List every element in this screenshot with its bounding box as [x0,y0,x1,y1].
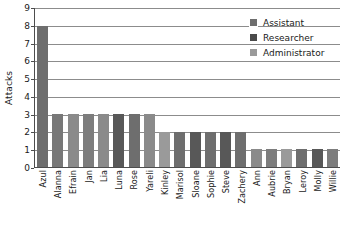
x-axis-tick-label-slot: Sloane [188,169,203,227]
bar[interactable] [235,132,246,167]
legend-label: Researcher [263,33,314,43]
legend-entry[interactable]: Administrator [249,45,341,60]
x-axis-tick-label-slot: Sophie [203,169,218,227]
y-axis-tick-label: 7 [16,39,30,48]
bar[interactable] [37,26,48,167]
x-axis-tick-label: Marisol [176,170,185,199]
x-axis-tick-label: Zachery [237,170,246,204]
bar-slot [172,8,187,167]
legend-swatch-icon [249,48,258,57]
x-axis-tick-label: Efrain [69,170,78,194]
x-axis-line [34,167,340,168]
bar[interactable] [327,149,338,167]
x-axis-tick-label-slot: Alanna [50,169,65,227]
bar[interactable] [266,149,277,167]
x-axis-tick-label: Azul [38,170,47,187]
bar[interactable] [159,132,170,167]
bar-slot [35,8,50,167]
x-axis-tick-label: Sophie [206,170,215,198]
chart-legend: AssistantResearcherAdministrator [246,14,341,61]
x-axis-tick-label-slot: Yareli [142,169,157,227]
x-axis-tick-label: Alanna [53,170,62,198]
legend-swatch-icon [249,18,258,27]
bar-slot [203,8,218,167]
y-axis-tick-label: 5 [16,75,30,84]
x-axis-tick-label-slot: Kinley [157,169,172,227]
x-axis-tick-label: Leroy [298,170,307,192]
y-axis-tick-label: 2 [16,128,30,137]
x-axis-tick-label-slot: Efrain [66,169,81,227]
bar[interactable] [144,114,155,167]
y-axis-tick-label: 3 [16,110,30,119]
x-axis-tick-label-slot: Jan [81,169,96,227]
x-axis-tick-label: Molly [313,170,322,191]
bar-slot [96,8,111,167]
bar-slot [188,8,203,167]
x-axis-tick-label-slot: Lia [96,169,111,227]
bar[interactable] [312,149,323,167]
x-axis-tick-label-slot: Rose [127,169,142,227]
x-axis-tick-label-slot: Bryan [280,169,295,227]
bar[interactable] [83,114,94,167]
bar-slot [50,8,65,167]
legend-swatch-icon [249,33,258,42]
y-axis-tick-mark [31,168,34,169]
x-axis-tick-label-slot: Leroy [295,169,310,227]
legend-label: Administrator [263,48,324,58]
y-axis-title-label: Attacks [4,70,14,104]
x-axis-tick-label: Rose [130,170,139,190]
y-axis-tick-label: 4 [16,92,30,101]
y-axis-tick-label: 8 [16,21,30,30]
x-axis-tick-label-slot: Aubrie [264,169,279,227]
bar[interactable] [281,149,292,167]
bar[interactable] [220,132,231,167]
x-axis-tick-labels: AzulAlannaEfrainJanLiaLunaRoseYareliKinl… [35,169,341,227]
x-axis-tick-label: Jan [84,170,93,183]
x-axis-tick-label-slot: Willie [326,169,341,227]
y-axis-tick-label: 9 [16,4,30,13]
bar-chart: Attacks 0123456789 AzulAlannaEfrainJanLi… [0,0,349,227]
y-axis-tick-label: 6 [16,57,30,66]
bar[interactable] [113,114,124,167]
x-axis-tick-label: Yareli [145,170,154,192]
x-axis-tick-label-slot: Azul [35,169,50,227]
x-axis-tick-label: Sloane [191,170,200,198]
bar-slot [157,8,172,167]
bar-slot [111,8,126,167]
legend-entry[interactable]: Researcher [249,30,341,45]
x-axis-tick-label-slot: Molly [310,169,325,227]
y-axis-tick-labels: 0123456789 [16,8,30,168]
legend-label: Assistant [263,18,304,28]
y-axis-title: Attacks [2,0,16,175]
legend-entry[interactable]: Assistant [249,15,341,30]
bar-slot [66,8,81,167]
x-axis-tick-label: Luna [115,170,124,190]
y-axis-line [34,8,35,168]
bar[interactable] [205,132,216,167]
x-axis-tick-label: Ann [252,170,261,186]
x-axis-tick-label: Kinley [161,170,170,195]
bar[interactable] [68,114,79,167]
x-axis-tick-label: Steve [222,170,231,193]
x-axis-tick-label: Lia [99,170,108,182]
bar-slot [81,8,96,167]
bar[interactable] [129,114,140,167]
bar[interactable] [296,149,307,167]
x-axis-tick-label-slot: Ann [249,169,264,227]
bar[interactable] [52,114,63,167]
x-axis-tick-label-slot: Steve [219,169,234,227]
y-axis-tick-label: 0 [16,164,30,173]
bar[interactable] [251,149,262,167]
x-axis-tick-label-slot: Marisol [173,169,188,227]
bar[interactable] [98,114,109,167]
x-axis-tick-label: Willie [329,170,338,192]
bar-slot [142,8,157,167]
x-axis-tick-label-slot: Zachery [234,169,249,227]
bar-slot [127,8,142,167]
x-axis-tick-label: Aubrie [268,170,277,197]
bar-slot [218,8,233,167]
y-axis-tick-label: 1 [16,146,30,155]
bar[interactable] [190,132,201,167]
x-axis-tick-label-slot: Luna [111,169,126,227]
bar[interactable] [174,132,185,167]
